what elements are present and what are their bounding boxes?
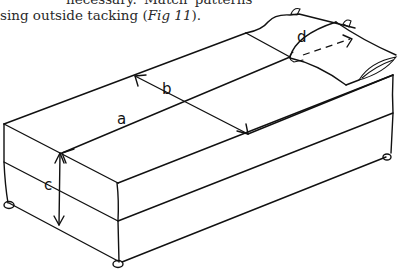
cover-front-line — [248, 75, 393, 134]
mattress-left-top-edge — [4, 124, 118, 183]
dimension-d-arrow — [303, 39, 350, 55]
dimension-c-line — [59, 153, 60, 225]
pillow-tuck-loop — [290, 52, 303, 62]
base-left-bottom-edge — [9, 203, 118, 261]
bed-measurement-illustration: a b c d — [0, 0, 399, 270]
front-corner-edge — [117, 183, 119, 262]
dimension-label-a: a — [117, 110, 126, 128]
pillow-fold-left — [246, 33, 290, 57]
dimension-label-d: d — [297, 28, 307, 46]
mattress-left-seam — [4, 162, 118, 221]
bedcover-centre-line — [62, 57, 290, 153]
pillow-lower-fold — [346, 80, 359, 85]
pillow-front-edge — [336, 22, 396, 55]
dimension-d-arrowhead — [343, 35, 352, 47]
pillow-underside — [290, 58, 346, 85]
dimension-label-b: b — [162, 80, 172, 98]
base-front-bottom-edge — [122, 157, 386, 262]
dimension-label-c: c — [44, 176, 52, 194]
dimension-b-line — [135, 76, 248, 134]
